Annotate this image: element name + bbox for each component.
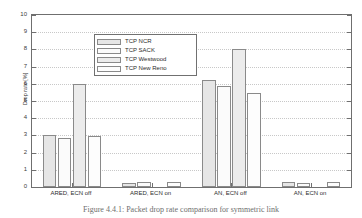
figure-caption: Figure 4.4.1: Packet drop rate compariso… <box>0 205 362 214</box>
bar <box>122 183 136 187</box>
bar <box>217 86 231 187</box>
bar <box>282 182 296 187</box>
legend-item: TCP SACK <box>97 46 194 55</box>
y-tick-label: 8 <box>15 45 27 51</box>
y-tick-label: 10 <box>15 11 27 17</box>
figure-container: Drop rate [%] 012345678910 TCP NCRTCP SA… <box>0 0 362 218</box>
legend-item: TCP NCR <box>97 37 194 46</box>
x-tick-label: ARED, ECN on <box>111 190 191 196</box>
legend-item: TCP Westwood <box>97 55 194 64</box>
legend-item: TCP New Reno <box>97 64 194 73</box>
bar <box>88 136 102 187</box>
y-tick-label: 4 <box>15 114 27 120</box>
legend-swatch-icon <box>97 48 121 54</box>
x-tick-label: ARED, ECN off <box>31 190 111 196</box>
x-tick-label: AN, ECN on <box>270 190 350 196</box>
bar <box>58 138 72 187</box>
legend-label: TCP New Reno <box>125 65 167 72</box>
bar <box>327 182 341 187</box>
bar <box>73 84 87 187</box>
plot-area: TCP NCRTCP SACKTCP WestwoodTCP New Reno <box>31 14 352 188</box>
bar <box>167 182 181 187</box>
y-tick-label: 3 <box>15 131 27 137</box>
chart-legend: TCP NCRTCP SACKTCP WestwoodTCP New Reno <box>94 34 197 76</box>
x-tick-label: AN, ECN off <box>190 190 270 196</box>
legend-label: TCP Westwood <box>125 56 166 63</box>
y-tick-label: 6 <box>15 80 27 86</box>
y-tick-mark <box>347 187 351 188</box>
bar <box>247 93 261 187</box>
y-tick-mark <box>32 187 36 188</box>
legend-swatch-icon <box>97 39 121 45</box>
y-tick-label: 2 <box>15 149 27 155</box>
y-tick-label: 0 <box>15 183 27 189</box>
bar <box>137 182 151 187</box>
y-tick-label: 1 <box>15 166 27 172</box>
bar <box>202 80 216 187</box>
legend-label: TCP SACK <box>125 47 155 54</box>
bar <box>232 49 246 187</box>
legend-label: TCP NCR <box>125 38 152 45</box>
y-tick-label: 7 <box>15 63 27 69</box>
y-tick-label: 9 <box>15 28 27 34</box>
bar <box>297 183 311 187</box>
bar <box>43 135 57 187</box>
legend-swatch-icon <box>97 57 121 63</box>
y-tick-label: 5 <box>15 97 27 103</box>
legend-swatch-icon <box>97 66 121 72</box>
